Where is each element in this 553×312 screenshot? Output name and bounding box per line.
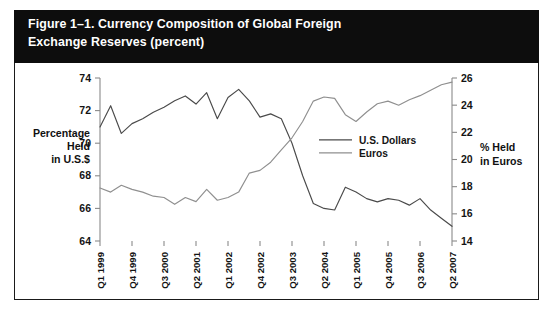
y-tick-label-left: 68: [79, 169, 91, 181]
figure-title-bar: Figure 1–1. Currency Composition of Glob…: [14, 10, 539, 63]
y-tick-label-right: 16: [461, 207, 473, 219]
figure-root: Figure 1–1. Currency Composition of Glob…: [0, 0, 553, 312]
x-tick-label: Q4 2002: [255, 252, 266, 289]
y-axis-title-left-line-1: Percentage: [33, 127, 90, 139]
x-tick-label: Q3 2003: [287, 252, 298, 289]
y-tick-label-right: 24: [461, 99, 473, 111]
plot-area: 64666870727414161820222426Q1 1999Q4 1999…: [14, 63, 539, 300]
x-tick-label: Q1 2002: [223, 252, 234, 289]
x-tick-label: Q2 2004: [319, 251, 330, 288]
x-tick-label: Q2 2007: [447, 252, 458, 289]
figure-title-line-1: Figure 1–1. Currency Composition of Glob…: [28, 17, 341, 31]
y-tick-label-left: 74: [79, 72, 91, 84]
y-tick-label-left: 64: [79, 235, 91, 247]
y-tick-label-right: 18: [461, 180, 473, 192]
y-axis-title-right-line-1: % Held: [480, 141, 515, 153]
y-axis-title-left-line-3: in U.S.$: [51, 153, 90, 165]
x-tick-label: Q3 2000: [159, 252, 170, 289]
x-tick-label: Q2 2001: [191, 251, 202, 288]
x-tick-label: Q4 1999: [127, 252, 138, 289]
y-axis-title-left-line-2: Held: [67, 140, 90, 152]
series-line-u-s-dollars: [100, 89, 452, 226]
x-tick-label: Q1 2005: [351, 251, 362, 288]
x-tick-label: Q3 2006: [415, 252, 426, 289]
y-axis-title-right-line-2: in Euros: [480, 155, 522, 167]
y-tick-label-right: 20: [461, 153, 473, 165]
x-tick-label: Q4 2005: [383, 251, 394, 288]
line-chart: 64666870727414161820222426Q1 1999Q4 1999…: [14, 63, 539, 300]
y-tick-label-left: 72: [79, 104, 91, 116]
y-tick-label-right: 14: [461, 235, 473, 247]
legend-label-1: U.S. Dollars: [359, 135, 417, 146]
figure-title-line-2: Exchange Reserves (percent): [28, 35, 204, 49]
y-tick-label-left: 66: [79, 202, 91, 214]
x-tick-label: Q1 1999: [95, 252, 106, 289]
y-tick-label-right: 22: [461, 126, 473, 138]
legend-label-2: Euros: [359, 148, 388, 159]
y-tick-label-right: 26: [461, 72, 473, 84]
